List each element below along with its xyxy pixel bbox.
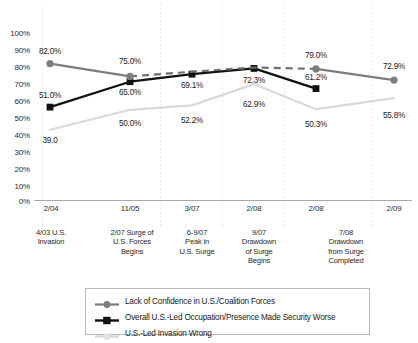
- x-axis-tick: 3/07: [174, 204, 210, 213]
- y-axis-tick: 30%: [0, 148, 30, 157]
- event-annotation-line: Invasion: [20, 237, 82, 246]
- legend-key-line-icon: [94, 328, 120, 339]
- legend-label: Lack of Confidence in U.S./Coalition For…: [125, 297, 275, 306]
- y-axis-tick: 80%: [0, 63, 30, 72]
- data-point-marker: [312, 65, 319, 72]
- data-label: 50.3%: [294, 120, 338, 129]
- legend-key-square-icon: [94, 312, 120, 323]
- y-axis-tick: 50%: [0, 114, 30, 123]
- event-annotation-line: Begins: [228, 256, 290, 265]
- event-annotation: 4/03 U.S. Invasion: [20, 228, 82, 247]
- event-annotation-line: of Surge: [228, 247, 290, 256]
- y-axis-tick: 100%: [0, 29, 30, 38]
- y-axis-tick: 20%: [0, 165, 30, 174]
- event-annotation-line: Drawdown: [228, 237, 290, 246]
- legend-label: Overall U.S.-Led Occupation/Presence Mad…: [125, 313, 335, 322]
- data-label: 82.0%: [28, 47, 72, 56]
- data-label: 61.2%: [294, 73, 338, 82]
- data-label: 69.1%: [170, 81, 214, 90]
- data-label: 62.9%: [232, 100, 276, 109]
- event-annotation: 2/07 Surge of U.S. Forces Begins: [98, 228, 166, 256]
- chart-container: 100% 90% 80% 70% 60% 50% 40% 30% 20% 10%…: [0, 0, 418, 343]
- data-label: 79.0%: [294, 51, 338, 60]
- x-axis-tick: 2/04: [33, 204, 69, 213]
- event-annotation-line: 6-9/07: [166, 228, 228, 237]
- data-point-marker: [390, 77, 397, 84]
- x-axis-tick: 2/08: [236, 204, 272, 213]
- event-annotation-line: Peak in: [166, 237, 228, 246]
- event-annotation-line: 2/07 Surge of: [98, 228, 166, 237]
- y-axis-tick: 90%: [0, 46, 30, 55]
- data-label: 51.0%: [28, 91, 72, 100]
- y-axis-tick: 60%: [0, 97, 30, 106]
- data-label: 50.0%: [108, 119, 152, 128]
- data-point-marker: [313, 85, 320, 92]
- y-axis-tick: 0%: [0, 197, 30, 206]
- x-axis-tick: 2/09: [376, 204, 412, 213]
- event-annotation-line: 4/03 U.S.: [20, 228, 82, 237]
- legend-item-invasion-wrong[interactable]: U.S.-Led Invasion Wrong: [94, 327, 212, 340]
- x-axis-tick: 11/05: [110, 204, 150, 213]
- legend-item-security-worse[interactable]: Overall U.S.-Led Occupation/Presence Mad…: [94, 311, 335, 324]
- data-label: 39.0: [28, 136, 72, 145]
- data-point-marker: [126, 73, 133, 80]
- data-point-marker: [46, 60, 53, 67]
- y-axis-tick: 10%: [0, 182, 30, 191]
- legend-label: U.S.-Led Invasion Wrong: [125, 329, 212, 338]
- data-label: 55.8%: [372, 111, 416, 120]
- data-label: 72.9%: [372, 62, 416, 71]
- x-axis-tick: 2/08: [298, 204, 334, 213]
- event-annotation: 6-9/07 Peak in U.S. Surge: [166, 228, 228, 256]
- legend-key-circle-icon: [94, 296, 120, 307]
- event-annotation-line: U.S. Forces: [98, 237, 166, 246]
- event-annotation-line: 7/08: [310, 228, 382, 237]
- event-annotation-line: Completed: [310, 256, 382, 265]
- data-label: 65.0%: [108, 88, 152, 97]
- y-axis-tick: 70%: [0, 80, 30, 89]
- event-annotation: 7/08 Drawdown from Surge Completed: [310, 228, 382, 266]
- legend-item-lack-of-confidence[interactable]: Lack of Confidence in U.S./Coalition For…: [94, 295, 275, 308]
- data-label: 52.2%: [170, 116, 214, 125]
- data-point-marker: [47, 104, 54, 111]
- data-label: 75.0%: [108, 57, 152, 66]
- chart-legend: Lack of Confidence in U.S./Coalition For…: [85, 288, 370, 335]
- event-annotation: 9/07 Drawdown of Surge Begins: [228, 228, 290, 266]
- event-annotation-line: from Surge: [310, 247, 382, 256]
- event-annotation-line: U.S. Surge: [166, 247, 228, 256]
- event-annotation-line: 9/07: [228, 228, 290, 237]
- event-annotation-line: Drawdown: [310, 237, 382, 246]
- event-annotation-line: Begins: [98, 247, 166, 256]
- data-label: 72.3%: [232, 76, 276, 85]
- y-axis-tick: 40%: [0, 131, 30, 140]
